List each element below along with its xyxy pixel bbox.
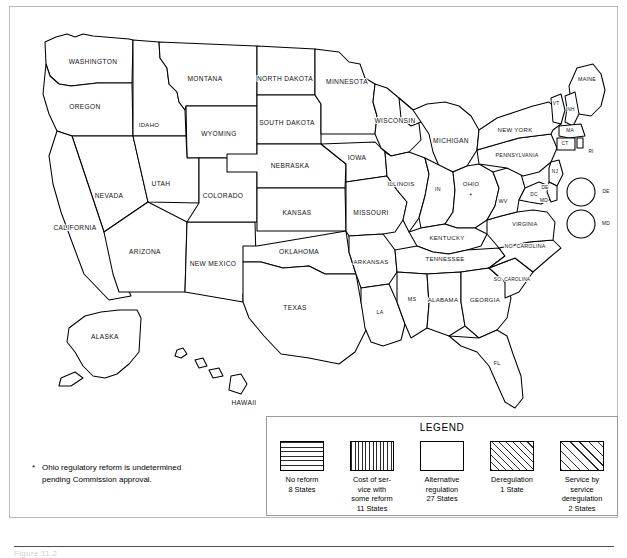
label-WY: WYOMING	[201, 130, 236, 137]
legend-label-line: Service by	[550, 475, 614, 485]
state-HI[interactable]	[175, 348, 247, 394]
label-ID: IDAHO	[139, 122, 160, 128]
label-OR: OREGON	[69, 103, 100, 110]
label-IN: IN	[435, 186, 441, 192]
legend-label-line: deregulation	[550, 494, 614, 504]
state-VT[interactable]	[551, 94, 565, 124]
label-MS: MS	[408, 296, 417, 302]
label-VA: VIRGINIA	[512, 221, 537, 227]
label-IA: IOWA	[348, 154, 367, 161]
legend-label-line: regulation	[410, 485, 474, 495]
state-ND[interactable]	[257, 46, 315, 95]
legend-title: LEGEND	[267, 422, 617, 433]
label-TN: TENNESSEE	[425, 256, 464, 262]
label-AK: ALASKA	[91, 333, 119, 340]
label-OK: OKLAHOMA	[279, 248, 319, 255]
label-VT: VT	[553, 101, 560, 106]
label-MO: MISSOURI	[353, 209, 388, 216]
label-NJ: NJ	[552, 169, 559, 174]
figure-caption: Figure 11.2	[14, 549, 57, 558]
label-LA: LA	[377, 309, 384, 315]
label-NV: NEVADA	[95, 192, 124, 199]
legend-label-line: 1 State	[480, 485, 544, 495]
label-WI: WISCONSIN	[374, 117, 415, 124]
inset-label-MD: MD	[602, 221, 610, 226]
legend-label-line: Cost of ser-	[340, 475, 404, 485]
legend-item-service-by-service[interactable]: Service by service deregulation 2 States	[550, 441, 614, 513]
inset-label-DE: DE	[602, 189, 609, 194]
legend-label-line: vice with	[340, 485, 404, 495]
state-AL[interactable]	[427, 272, 465, 336]
legend-item-cost-of-service[interactable]: Cost of ser- vice with some reform 11 St…	[340, 441, 404, 513]
label-PA: PENNSYLVANIA	[496, 152, 539, 158]
label-AR: ARKANSAS	[353, 259, 388, 265]
legend-items: No reform 8 States Cost of ser- vice wit…	[267, 441, 617, 513]
label-ND: NORTH DAKOTA	[257, 75, 313, 82]
legend-label-line: Alternative	[410, 475, 474, 485]
label-MA: MA	[566, 128, 574, 133]
state-TX[interactable]	[243, 262, 367, 364]
legend-label-line: No reform	[270, 475, 334, 485]
label-DC: DC	[530, 192, 538, 197]
footnote-asterisk: *	[32, 462, 35, 474]
footnote-line-1: Ohio regulatory reform is undetermined	[42, 462, 262, 474]
label-FL: FL	[494, 360, 501, 366]
label-CT: CT	[562, 141, 569, 146]
label-MI: MICHIGAN	[433, 137, 469, 144]
state-MN[interactable]	[315, 49, 377, 134]
label-OH: OHIO	[463, 181, 480, 187]
state-FL[interactable]	[449, 330, 523, 408]
legend-item-deregulation[interactable]: Deregulation 1 State	[480, 441, 544, 494]
legend-item-no-reform[interactable]: No reform 8 States	[270, 441, 334, 494]
inset-circle-DE[interactable]	[567, 178, 595, 206]
label-WV: WV	[498, 198, 507, 204]
legend-swatch-blank	[420, 441, 464, 471]
legend-label-line: 27 States	[410, 494, 474, 504]
label-CA: CALIFORNIA	[53, 224, 96, 231]
label-SC: SO. CAROLINA	[494, 277, 531, 282]
legend-label-line: 11 States	[340, 504, 404, 514]
label-IL: ILLINOIS	[387, 181, 414, 187]
label-TX: TEXAS	[283, 304, 307, 311]
caption-rule	[14, 546, 614, 547]
label-KY: KENTUCKY	[429, 235, 464, 241]
legend-swatch-horizontal	[280, 441, 324, 471]
label-UT: UTAH	[152, 180, 171, 187]
label-AL: ALABAMA	[428, 297, 458, 303]
legend-swatch-diagonal-wide	[560, 441, 604, 471]
legend-swatch-vertical	[350, 441, 394, 471]
footnote: * Ohio regulatory reform is undetermined…	[32, 462, 262, 486]
legend-swatch-diagonal-fine	[490, 441, 534, 471]
label-MD-side: MD	[540, 198, 548, 203]
legend-label-line: Deregulation	[480, 475, 544, 485]
label-AZ: ARIZONA	[129, 248, 161, 255]
label-WA: WASHINGTON	[69, 58, 118, 65]
legend-label-line: service	[550, 485, 614, 495]
label-MT: MONTANA	[188, 75, 223, 82]
label-GA: GEORGIA	[470, 297, 500, 303]
label-NC: NO. CAROLINA	[505, 243, 546, 249]
label-NM: NEW MEXICO	[190, 260, 237, 267]
label-CO: COLORADO	[203, 192, 244, 199]
label-DE-side: DE	[541, 185, 548, 190]
inset-circle-MD[interactable]	[567, 210, 595, 238]
label-SD: SOUTH DAKOTA	[259, 119, 315, 126]
label-NE: NEBRASKA	[271, 162, 310, 169]
label-NH: NH	[567, 107, 575, 112]
legend-box: LEGEND No reform 8 States Cost of ser- v…	[266, 416, 618, 516]
legend-item-alternative-regulation[interactable]: Alternative regulation 27 States	[410, 441, 474, 504]
label-KS: KANSAS	[283, 209, 312, 216]
footnote-line-2: pending Commission approval.	[42, 474, 262, 486]
label-MN: MINNESOTA	[326, 78, 368, 85]
label-RI: RI	[588, 149, 593, 154]
label-HI: HAWAII	[231, 399, 256, 406]
legend-label-line: some reform	[340, 494, 404, 504]
label-NY: NEW YORK	[498, 127, 533, 133]
ohio-asterisk: *	[470, 192, 473, 199]
state-RI[interactable]	[577, 138, 583, 148]
legend-label-line: 2 States	[550, 504, 614, 514]
state-AK[interactable]	[59, 310, 141, 386]
legend-label-line: 8 States	[270, 485, 334, 495]
label-ME: MAINE	[578, 76, 596, 82]
